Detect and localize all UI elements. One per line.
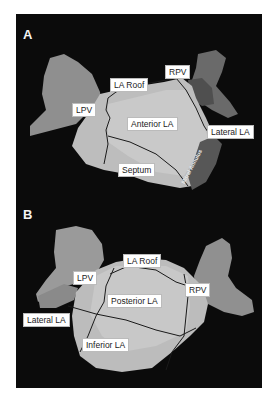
label-inferior-la: Inferior LA: [82, 338, 129, 352]
panel-a-anterior-view: A LA Roof RPV LPV Anterior LA Lateral LA…: [16, 14, 262, 196]
label-rpv-a: RPV: [165, 65, 190, 79]
label-la-roof-b: LA Roof: [123, 254, 161, 268]
label-posterior-la: Posterior LA: [107, 294, 162, 308]
label-septum: Septum: [118, 163, 155, 177]
label-anterior-la: Anterior LA: [127, 117, 178, 131]
label-lpv-b: LPV: [73, 271, 97, 285]
panel-b-letter: B: [23, 208, 32, 221]
label-lateral-la-a: Lateral LA: [207, 125, 254, 139]
label-la-roof-a: LA Roof: [110, 78, 148, 92]
label-lpv-a: LPV: [72, 103, 96, 117]
label-lateral-la-b: Lateral LA: [23, 313, 70, 327]
panel-b-anatomy-render: [16, 196, 262, 388]
panel-a-letter: A: [23, 28, 32, 41]
panel-b-posterior-view: B LA Roof LPV RPV Posterior LA Lateral L…: [16, 196, 262, 388]
label-rpv-b: RPV: [185, 283, 210, 297]
